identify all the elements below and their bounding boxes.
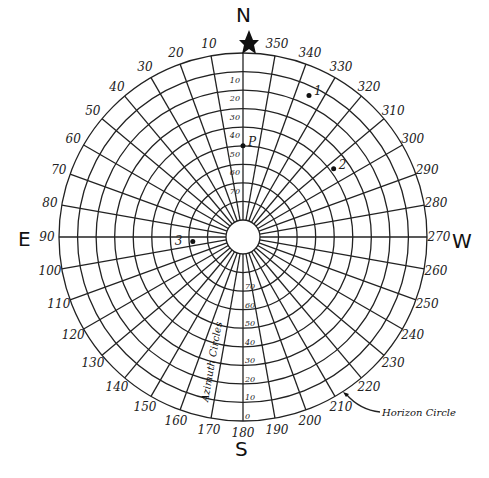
azimuth-label: 260 — [424, 264, 448, 278]
altitude-label: 20 — [244, 375, 255, 384]
azimuth-line — [260, 205, 424, 234]
altitude-label: 40 — [229, 131, 240, 140]
azimuth-line — [62, 205, 226, 234]
azimuth-label: 70 — [51, 163, 67, 177]
point-label: 1 — [314, 84, 322, 98]
altitude-label: 0 — [245, 412, 250, 421]
azimuth-label: 250 — [415, 297, 439, 311]
altitude-label: 70 — [230, 187, 240, 196]
azimuth-label: 120 — [62, 328, 85, 342]
altitude-label: 10 — [245, 393, 255, 402]
altitude-label: 10 — [230, 76, 240, 85]
azimuth-label: 240 — [400, 328, 424, 342]
azimuth-label: 30 — [137, 60, 153, 74]
north-star-icon — [239, 30, 259, 54]
azimuth-label: 80 — [42, 196, 58, 210]
altitude-label: 20 — [229, 94, 240, 103]
azimuth-circles-label: Azimuth Circles — [199, 321, 224, 403]
point-label: P — [247, 135, 257, 149]
azimuth-label: 10 — [201, 37, 217, 51]
east-label: E — [18, 227, 31, 251]
azimuth-label: 50 — [85, 104, 101, 118]
azimuth-label: 270 — [427, 230, 451, 244]
azimuth-label: 280 — [424, 196, 448, 210]
altitude-label: 30 — [230, 113, 240, 122]
altitude-label: 50 — [230, 150, 240, 159]
azimuth-label: 320 — [358, 80, 381, 94]
azimuth-label: 340 — [299, 46, 322, 60]
zenith-circle — [226, 220, 260, 254]
azimuth-label: 220 — [357, 380, 381, 394]
azimuth-line — [260, 240, 424, 269]
chart-grid — [59, 53, 427, 421]
polar-star-chart: 1020304050607080901001101201301401501601… — [0, 0, 489, 478]
azimuth-label: 20 — [167, 46, 184, 60]
point-label: 3 — [175, 234, 183, 248]
plotted-point-marker — [190, 239, 195, 244]
azimuth-line — [62, 240, 226, 269]
altitude-label: 30 — [245, 356, 255, 365]
azimuth-label: 100 — [39, 264, 62, 278]
horizon-circle-label: Horizon Circle — [381, 407, 456, 418]
azimuth-label: 40 — [108, 80, 125, 94]
azimuth-label: 300 — [401, 132, 424, 146]
azimuth-label: 200 — [298, 414, 322, 428]
plotted-point-marker — [331, 166, 336, 171]
azimuth-label: 350 — [266, 37, 289, 51]
south-label: S — [235, 437, 248, 461]
altitude-label: 60 — [230, 168, 240, 177]
azimuth-label: 140 — [106, 380, 129, 394]
azimuth-label: 230 — [381, 356, 405, 370]
azimuth-label: 130 — [81, 356, 104, 370]
azimuth-label: 290 — [415, 163, 439, 177]
azimuth-label: 190 — [266, 423, 289, 437]
plotted-point-marker — [306, 93, 311, 98]
azimuth-label: 210 — [329, 400, 353, 414]
azimuth-label: 60 — [66, 132, 82, 146]
azimuth-label: 170 — [198, 423, 221, 437]
west-label: W — [452, 229, 472, 253]
altitude-label: 70 — [245, 282, 255, 291]
north-label: N — [236, 3, 251, 27]
altitude-label: 60 — [245, 301, 255, 310]
azimuth-label: 310 — [382, 104, 405, 118]
point-label: 2 — [338, 158, 347, 172]
plotted-point-marker — [241, 143, 246, 148]
altitude-label: 40 — [244, 338, 255, 347]
altitude-label: 50 — [245, 319, 255, 328]
azimuth-label: 150 — [134, 400, 157, 414]
azimuth-label: 110 — [47, 297, 70, 311]
azimuth-label: 90 — [39, 230, 55, 244]
azimuth-label: 330 — [330, 60, 353, 74]
azimuth-label: 160 — [165, 414, 188, 428]
